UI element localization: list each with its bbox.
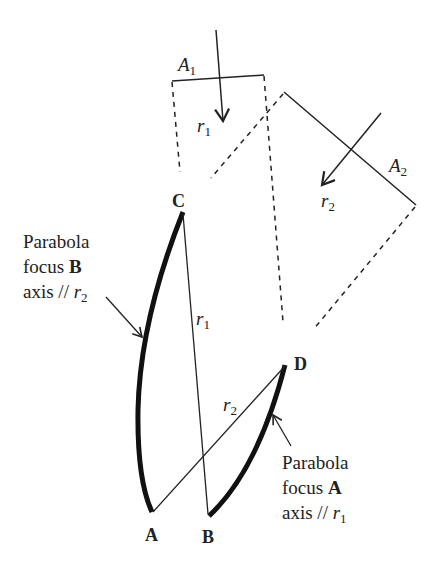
segment-ad-label: r2 (223, 394, 237, 418)
annotation-right: Parabola focus A axis // r1 (273, 415, 349, 526)
segment-cb (183, 214, 208, 514)
point-a-label: A (145, 525, 158, 545)
annotation-right-line2: focus A (282, 477, 342, 498)
point-c-label: C (172, 191, 185, 211)
annotation-right-arrow-icon (273, 415, 291, 446)
annotation-left: Parabola focus B axis // r2 (23, 231, 142, 337)
aperture-a2: A2 r2 (211, 92, 416, 330)
ray-r2-label: r2 (321, 190, 335, 214)
ray-r1-arrow-icon (216, 30, 223, 121)
parabola-focus-b-arc (138, 212, 183, 512)
aperture-a1-dashed-left (172, 82, 180, 172)
annotation-left-arrow-icon (106, 297, 142, 337)
annotation-left-line3: axis // r2 (23, 281, 88, 305)
aperture-a1-label: A1 (176, 54, 196, 78)
annotation-left-line2: focus B (23, 256, 82, 277)
ray-r1-label: r1 (197, 115, 211, 139)
parabola-diagram: A1 r1 A2 r2 r1 r2 C A B D Parabola focus… (0, 0, 440, 572)
point-b-label: B (202, 527, 214, 547)
aperture-a1-line (172, 75, 264, 81)
ray-r2-arrow-icon (322, 113, 381, 185)
annotation-right-line3: axis // r1 (282, 502, 347, 526)
segment-ad (153, 366, 285, 512)
aperture-a2-dashed-bottom (313, 207, 415, 330)
aperture-a2-line (284, 92, 416, 205)
annotation-left-line1: Parabola (23, 231, 90, 252)
segment-cb-label: r1 (196, 308, 210, 332)
parabola-focus-a-arc (209, 365, 285, 516)
annotation-right-line1: Parabola (282, 452, 349, 473)
point-d-label: D (294, 354, 307, 374)
aperture-a2-label: A2 (387, 155, 407, 179)
